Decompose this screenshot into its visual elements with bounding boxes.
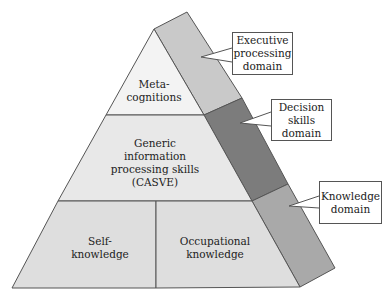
label-metacognitions: Meta- cognitions	[118, 78, 190, 104]
label-self-knowledge: Self- knowledge	[60, 235, 140, 261]
callout-knowledge-domain: Knowledge domain	[319, 181, 382, 224]
label-generic-skills: Generic information processing skills (C…	[90, 137, 220, 189]
callout-executive-domain: Executive processing domain	[232, 32, 293, 75]
callout-decision-domain: Decision skills domain	[271, 99, 332, 141]
label-occupational-knowledge: Occupational knowledge	[170, 235, 260, 261]
